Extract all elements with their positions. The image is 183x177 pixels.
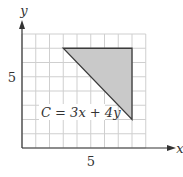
feasible-region-diagram: C = 3x + 4y x y 5 5 [0,0,183,177]
x-axis-label: x [176,141,183,156]
x-tick-label: 5 [87,154,95,169]
objective-label: C = 3x + 4y [41,105,121,120]
axes [19,20,176,151]
y-tick-label: 5 [8,70,16,85]
y-axis-arrow-icon [19,20,25,29]
y-axis-label: y [19,3,28,18]
x-axis-arrow-icon [167,145,176,151]
